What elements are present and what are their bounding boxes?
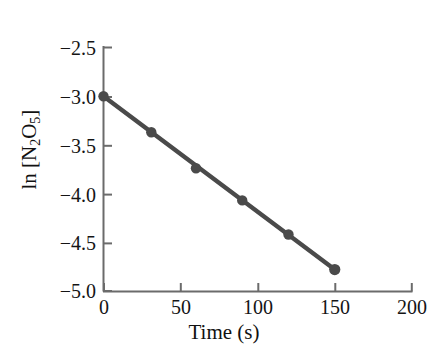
y-tick-label--4.5: −4.5 (40, 233, 96, 253)
y-axis-title: ln [N2O5] (19, 110, 42, 190)
y-axis-title-suffix: ] (17, 110, 41, 117)
data-trend-line (104, 96, 335, 269)
y-axis-title-prefix: ln [N (17, 146, 41, 190)
y-tick-label--3.0: −3.0 (40, 87, 96, 107)
y-tick-label--2.5: −2.5 (40, 38, 96, 58)
data-point-3 (237, 195, 247, 205)
data-point-5 (329, 264, 340, 275)
y-tick-label--3.5: −3.5 (40, 136, 96, 156)
x-tick-label-200: 200 (397, 297, 427, 317)
y-axis-title-mid: O (17, 124, 41, 139)
x-axis-ticks (104, 283, 412, 292)
chart-figure: −2.5 −3.0 −3.5 −4.0 −4.5 −5.0 0 50 100 1… (0, 0, 448, 359)
x-tick-label-100: 100 (243, 297, 273, 317)
data-point-2 (191, 163, 201, 173)
y-tick-label--5.0: −5.0 (40, 281, 96, 301)
y-tick-label--4.0: −4.0 (40, 185, 96, 205)
x-tick-label-50: 50 (171, 297, 191, 317)
y-axis-title-sub-2: 2 (28, 139, 43, 146)
data-point-0 (98, 91, 108, 101)
data-point-1 (146, 127, 156, 137)
x-tick-label-150: 150 (320, 297, 350, 317)
y-axis-ticks (104, 48, 113, 292)
data-point-4 (283, 229, 293, 239)
y-axis-title-sub-5: 5 (28, 117, 43, 124)
x-axis-title: Time (s) (0, 322, 448, 343)
y-axis-title-container: ln [N2O5] (14, 0, 48, 300)
x-tick-label-0: 0 (99, 297, 109, 317)
